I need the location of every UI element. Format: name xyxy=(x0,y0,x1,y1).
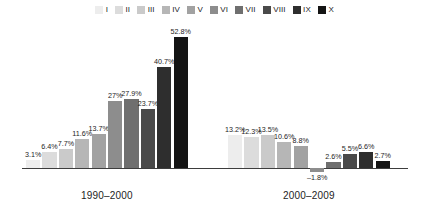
legend-item: II xyxy=(115,6,130,14)
bar xyxy=(26,160,40,168)
legend-item: VIII xyxy=(263,6,286,14)
bar-column: 27.9% xyxy=(124,24,138,168)
bar-value-label: –1.8% xyxy=(294,174,340,181)
bar xyxy=(157,67,171,168)
legend-item-label: II xyxy=(126,6,131,14)
bar xyxy=(124,99,138,168)
axis-caption-left: 1990–2000 xyxy=(47,190,167,201)
bar xyxy=(310,168,324,172)
legend-item: X xyxy=(318,6,334,14)
legend-swatch-icon xyxy=(115,6,123,14)
bar-column: –1.8% xyxy=(310,24,324,168)
bar xyxy=(42,152,56,168)
legend-swatch-icon xyxy=(210,6,218,14)
bar xyxy=(277,142,291,168)
legend-item-label: I xyxy=(106,6,108,14)
legend-item-label: VII xyxy=(246,6,256,14)
bar-column: 10.6% xyxy=(277,24,291,168)
bar-value-label: 52.8% xyxy=(158,28,204,35)
legend-swatch-icon xyxy=(293,6,301,14)
bar-column: 6.6% xyxy=(359,24,373,168)
legend-item-label: III xyxy=(148,6,155,14)
bar xyxy=(244,137,258,168)
legend-item-label: IV xyxy=(172,6,180,14)
legend-item: III xyxy=(137,6,154,14)
bar-value-label: 2.7% xyxy=(360,152,406,159)
legend-item-label: IX xyxy=(303,6,311,14)
legend-swatch-icon xyxy=(95,6,103,14)
legend-item-label: VIII xyxy=(273,6,285,14)
legend-item-label: VI xyxy=(220,6,228,14)
legend-swatch-icon xyxy=(235,6,243,14)
bar xyxy=(343,154,357,168)
bar-column: 52.8% xyxy=(174,24,188,168)
chart-legend: IIIIIIIVVVIVIIVIIIIXX xyxy=(0,6,429,14)
bar xyxy=(294,146,308,168)
legend-swatch-icon xyxy=(263,6,271,14)
bar xyxy=(228,135,242,168)
plot-area: 3.1%6.4%7.7%11.6%13.7%27%27.9%23.7%40.7%… xyxy=(0,24,429,174)
bar xyxy=(376,161,390,168)
axis-caption-right: 2000–2009 xyxy=(249,190,369,201)
legend-swatch-icon xyxy=(137,6,145,14)
legend-item: VII xyxy=(235,6,256,14)
bar xyxy=(326,162,340,168)
bar-chart: IIIIIIIVVVIVIIVIIIIXX 3.1%6.4%7.7%11.6%1… xyxy=(0,0,429,215)
bar-column: 23.7% xyxy=(141,24,155,168)
legend-item-label: X xyxy=(328,6,333,14)
bar xyxy=(75,139,89,168)
legend-swatch-icon xyxy=(187,6,195,14)
bar-column: 2.7% xyxy=(376,24,390,168)
bar xyxy=(59,149,73,168)
bar xyxy=(108,101,122,168)
bar-column: 8.8% xyxy=(294,24,308,168)
axis-baseline xyxy=(22,168,408,169)
bar-column: 12.3% xyxy=(244,24,258,168)
bar-column: 11.6% xyxy=(75,24,89,168)
bar xyxy=(92,134,106,168)
legend-item: V xyxy=(187,6,203,14)
bar xyxy=(174,37,188,168)
legend-item: IX xyxy=(293,6,311,14)
legend-item: I xyxy=(95,6,108,14)
legend-item: VI xyxy=(210,6,228,14)
bar-column: 40.7% xyxy=(157,24,171,168)
bar-column: 13.5% xyxy=(261,24,275,168)
legend-swatch-icon xyxy=(318,6,326,14)
legend-item: IV xyxy=(162,6,180,14)
legend-swatch-icon xyxy=(162,6,170,14)
bar xyxy=(141,109,155,168)
bar-column: 13.2% xyxy=(228,24,242,168)
legend-item-label: V xyxy=(197,6,202,14)
bar-column: 7.7% xyxy=(59,24,73,168)
